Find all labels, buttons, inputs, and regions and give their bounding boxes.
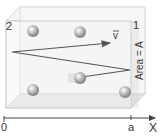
molecule (27, 84, 39, 96)
x-axis: 0 a X (1, 115, 157, 135)
molecule (74, 26, 86, 38)
wall-2-label: 2 (6, 20, 12, 32)
molecule (119, 86, 131, 98)
origin-label: 0 (1, 121, 7, 133)
molecule (74, 72, 86, 84)
a-label: a (128, 121, 135, 133)
velocity-label: v (113, 30, 118, 41)
x-axis-label: X (149, 121, 157, 135)
molecule (27, 25, 39, 37)
gas-box-diagram: 2 1 v Area = A 0 a X (0, 0, 161, 140)
wall-1-label: 1 (133, 19, 139, 31)
area-label: Area = A (134, 41, 145, 80)
